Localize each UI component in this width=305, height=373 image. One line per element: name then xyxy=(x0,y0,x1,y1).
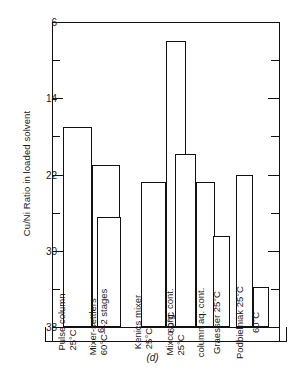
bar-label-kenics-mixer-25: Kenics mixer25°C xyxy=(133,295,154,349)
bar-label-line1: Mixer-settlers xyxy=(88,289,99,356)
bar-label-line1: Kenics mixer xyxy=(133,295,144,349)
y-axis-title: Cu/Ni Ratio in loaded solvent xyxy=(21,74,32,274)
figure-caption: (d) xyxy=(0,352,305,363)
bar-label-pulse-column-25: Pulse column25°C xyxy=(57,293,78,350)
bar-graesser-25: Graesser 25°C xyxy=(213,236,230,328)
bar-label-line2: 25°C xyxy=(175,288,186,355)
y-tick-minor-right xyxy=(271,60,279,61)
bar-label-mixco-column-aq-cont: column aq. cont. xyxy=(195,287,206,357)
y-tick-major-right xyxy=(268,98,279,99)
y-tick-minor xyxy=(52,213,60,214)
y-tick-label: 22 xyxy=(46,169,57,180)
bar-label-line1: Podbielniak 25°C xyxy=(234,286,245,359)
bar-label-line2: 60°C—2 stages xyxy=(99,289,110,356)
y-tick-major-right xyxy=(268,22,279,23)
y-tick-minor xyxy=(52,60,60,61)
bar-mixco-org-cont-25: Mixco org. cont.25°C xyxy=(175,154,196,327)
axis-right-stub xyxy=(279,327,280,341)
y-tick-label: 6 xyxy=(51,17,57,28)
bar-label-line1: Graesser 25°C xyxy=(211,291,222,354)
y-tick-label: 14 xyxy=(46,93,57,104)
bar-label-line1: column aq. cont. xyxy=(195,287,206,357)
y-tick-minor-right xyxy=(271,136,279,137)
bar-label-graesser-25: Graesser 25°C xyxy=(211,291,222,354)
bar-label-podbielniak-25: Podbielniak 25°C xyxy=(234,286,245,359)
bar-label-mixer-settlers: Mixer-settlers60°C—2 stages xyxy=(88,289,109,356)
bar-label-line1: Pulse column xyxy=(57,293,68,350)
y-tick-minor xyxy=(52,289,60,290)
bar-label-mixco-org-cont-25: Mixco org. cont.25°C xyxy=(165,288,186,355)
bar-mixer-settlers: Mixer-settlers60°C—2 stages xyxy=(97,217,121,327)
bar-podbielniak-25: Podbielniak 25°C xyxy=(236,175,253,328)
bar-label-line1: Mixco org. cont. xyxy=(165,288,176,355)
bar-label-line2: 25°C xyxy=(143,295,154,349)
bar-label-podbielniak-60: 60°C xyxy=(251,311,262,332)
outer-right-stub xyxy=(286,327,287,342)
y-tick-minor-right xyxy=(271,289,279,290)
bar-podbielniak-60: 60°C xyxy=(253,287,269,327)
bar-chart-figure: Cu/Ni Ratio in loaded solvent 383022146 … xyxy=(0,0,305,373)
bar-label-line2: 25°C xyxy=(67,293,78,350)
y-tick-major-right xyxy=(268,327,279,328)
bar-kenics-mixer-25: Kenics mixer25°C xyxy=(141,182,166,327)
y-tick-minor-right xyxy=(271,213,279,214)
y-tick-major-right xyxy=(268,251,279,252)
bar-label-line2: 60°C xyxy=(251,311,262,332)
y-tick-label: 30 xyxy=(46,245,57,256)
y-tick-minor xyxy=(52,136,60,137)
y-tick-major-right xyxy=(268,175,279,176)
